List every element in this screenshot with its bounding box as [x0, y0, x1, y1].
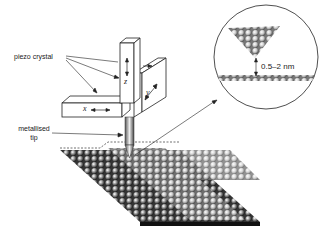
stm-diagram [0, 0, 323, 240]
magnified-view [214, 5, 318, 109]
gap-distance-label: 0.5–2 nm [261, 63, 311, 71]
piezo-z-bar [120, 38, 140, 103]
sample-surface [60, 148, 260, 226]
x-axis-label: x [83, 104, 87, 113]
metallised-tip-label-line2: tip [12, 134, 56, 142]
scan-path-dashed [60, 142, 180, 148]
metallised-tip-label-line1: metallised [12, 125, 56, 133]
piezo-leader-lines [66, 56, 119, 93]
piezo-crystal-label: piezo crystal [14, 53, 70, 61]
y-axis-label: y [146, 88, 150, 97]
z-axis-label: z [124, 77, 127, 86]
tip-leader-line [52, 133, 123, 137]
